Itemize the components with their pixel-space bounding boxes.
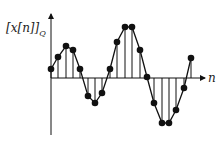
sample-dot: [48, 66, 55, 73]
y-axis-label: [x[n]]Q: [6, 21, 46, 38]
sample-dot: [114, 39, 121, 46]
sample-dot: [188, 55, 195, 62]
sample-dot: [70, 47, 77, 54]
stems: [51, 27, 191, 123]
quantized-signal-plot: [x[n]]Q n: [0, 0, 224, 142]
sample-dot: [129, 24, 136, 31]
sample-dot: [92, 100, 99, 107]
x-axis-label: n: [208, 71, 216, 85]
sample-dot: [99, 90, 106, 97]
sample-dot: [55, 54, 62, 61]
sample-dot: [173, 107, 180, 114]
sample-dot: [63, 43, 70, 50]
sample-dot: [122, 24, 129, 31]
sample-dot: [107, 66, 114, 73]
sample-dot: [166, 120, 173, 127]
sample-dot: [85, 93, 92, 100]
sample-points: [48, 24, 195, 127]
sample-dot: [144, 74, 151, 81]
sample-dot: [151, 100, 158, 107]
sample-dot: [77, 66, 84, 73]
signal-envelope: [51, 27, 191, 123]
sample-dot: [181, 85, 188, 92]
sample-dot: [137, 47, 144, 54]
sample-dot: [159, 120, 166, 127]
